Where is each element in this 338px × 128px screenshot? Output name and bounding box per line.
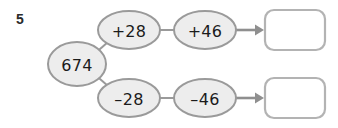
start-node-label: 674 (61, 56, 92, 75)
arrow-head-top-icon (255, 25, 264, 36)
top-step-2-node: +46 (174, 11, 236, 49)
arrow-head-bottom-icon (255, 93, 264, 104)
start-node: 674 (48, 42, 106, 86)
top-step-2-label: +46 (188, 22, 223, 41)
bottom-step-2-label: –46 (190, 90, 219, 109)
answer-box-bottom[interactable] (265, 78, 325, 118)
bottom-step-1-label: –28 (114, 90, 143, 109)
function-machine-diagram: 674 +28 +46 –28 –46 (0, 0, 338, 128)
worksheet-exercise: 5 674 +28 +46 –28 (0, 0, 338, 128)
top-step-1-node: +28 (98, 11, 160, 49)
bottom-step-2-node: –46 (174, 79, 236, 117)
top-step-1-label: +28 (112, 22, 147, 41)
answer-box-top[interactable] (265, 10, 325, 50)
bottom-step-1-node: –28 (98, 79, 160, 117)
